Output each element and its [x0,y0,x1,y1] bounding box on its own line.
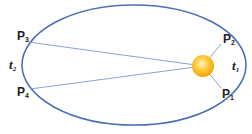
label-t2-sub: 2 [13,65,17,73]
label-p3-letter: P [17,29,25,43]
label-p2-sub: 2 [231,39,235,46]
label-t1: t1 [232,60,239,76]
label-p2-letter: P [223,32,231,46]
label-p3: P3 [17,30,29,46]
label-t1-sub: 1 [236,66,240,74]
label-p3-sub: 3 [25,36,29,43]
label-p4-letter: P [17,85,25,99]
label-p4-sub: 4 [25,92,29,99]
radius-line-p4 [30,66,203,89]
orbit-diagram: P3 t2 P4 P2 t1 P1 [0,0,252,134]
label-p1-sub: 1 [230,94,234,101]
label-t2: t2 [9,59,16,75]
radius-line-p3 [28,42,203,66]
label-p4: P4 [17,86,29,102]
label-p2: P2 [223,33,235,49]
orbit-svg [0,0,252,134]
sun-icon [192,55,214,77]
label-p1-letter: P [222,87,230,101]
label-p1: P1 [222,88,234,104]
